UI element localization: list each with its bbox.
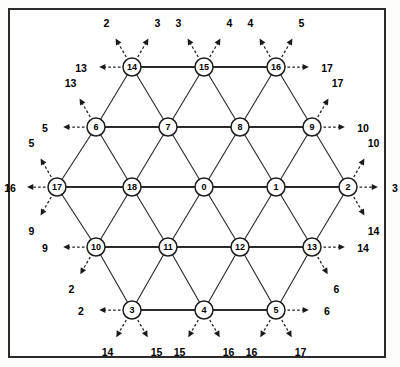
stub-label: 10 <box>368 137 380 149</box>
node-2[interactable]: 2 <box>339 178 357 196</box>
stub-16-to-17: 17 <box>288 62 333 74</box>
stub-label: 5 <box>29 137 35 149</box>
stub-label: 4 <box>248 17 254 29</box>
edge-13-5 <box>280 255 307 302</box>
edge-9-1 <box>281 135 308 180</box>
edge-0-12 <box>209 195 236 240</box>
node-17[interactable]: 17 <box>48 178 66 196</box>
edge-16-9 <box>281 75 308 120</box>
stub-label: 6 <box>324 305 330 317</box>
node-15[interactable]: 15 <box>195 58 213 76</box>
stub-13-to-14: 14 <box>324 242 369 254</box>
node-7[interactable]: 7 <box>159 118 177 136</box>
stub-3-to-15: 15 <box>138 320 163 358</box>
stub-label: 14 <box>368 225 380 237</box>
node-label: 2 <box>345 182 350 192</box>
stub-label: 5 <box>299 17 305 29</box>
node-8[interactable]: 8 <box>231 118 249 136</box>
arrowhead-icon <box>63 244 69 250</box>
stub-label: 16 <box>246 346 258 358</box>
stub-label: 17 <box>321 62 333 74</box>
node-label: 18 <box>127 182 137 192</box>
stub-label: 3 <box>176 17 182 29</box>
node-label: 1 <box>273 182 278 192</box>
stub-label: 3 <box>392 182 398 194</box>
edge-15-8 <box>209 75 236 120</box>
node-label: 11 <box>163 242 173 252</box>
node-18[interactable]: 18 <box>123 178 141 196</box>
arrowhead-icon <box>99 307 105 313</box>
node-label: 4 <box>201 305 206 315</box>
node-16[interactable]: 16 <box>267 58 285 76</box>
edge-14-7 <box>137 75 164 120</box>
stub-4-to-16: 16 <box>210 320 235 358</box>
stub-label: 3 <box>155 17 161 29</box>
node-9[interactable]: 9 <box>303 118 321 136</box>
stub-label: 9 <box>42 242 48 254</box>
node-12[interactable]: 12 <box>231 238 249 256</box>
stub-label: 14 <box>357 242 369 254</box>
node-label: 8 <box>237 122 242 132</box>
node-label: 5 <box>273 305 278 315</box>
node-5[interactable]: 5 <box>267 301 285 319</box>
node-14[interactable]: 14 <box>123 58 141 76</box>
node-label: 10 <box>91 242 101 252</box>
stub-label: 14 <box>102 346 114 358</box>
stub-2-to-10: 10 <box>354 137 380 177</box>
stub-5-to-6: 6 <box>288 305 331 317</box>
node-10[interactable]: 10 <box>87 238 105 256</box>
arrowhead-icon <box>214 330 220 337</box>
stub-label: 9 <box>29 225 35 237</box>
stub-15-to-3: 3 <box>176 17 199 57</box>
stub-16-to-4: 4 <box>248 17 271 57</box>
edge-6-18 <box>101 135 128 180</box>
node-label: 7 <box>165 122 170 132</box>
node-label: 6 <box>93 122 98 132</box>
edge-11-4 <box>172 255 199 302</box>
node-1[interactable]: 1 <box>267 178 285 196</box>
stub-label: 17 <box>295 346 307 358</box>
stub-label: 10 <box>357 122 369 134</box>
edge-18-11 <box>137 195 164 240</box>
stub-10-to-9: 9 <box>42 242 84 254</box>
node-6[interactable]: 6 <box>87 118 105 136</box>
stub-label: 16 <box>4 182 16 194</box>
stub-17-to-16: 16 <box>4 182 45 194</box>
edge-12-5 <box>244 255 271 302</box>
nodes-layer: 1415166789171801210111213345 <box>48 58 357 319</box>
stub-14-to-13: 13 <box>75 62 120 74</box>
node-label: 15 <box>199 62 209 72</box>
stub-13-to-6: 6 <box>318 257 340 295</box>
stub-17-to-9: 9 <box>29 197 52 237</box>
edge-12-4 <box>208 255 235 302</box>
stub-label: 2 <box>69 283 75 295</box>
edge-0-11 <box>173 195 200 240</box>
edge-8-0 <box>209 135 236 180</box>
edge-8-1 <box>245 135 272 180</box>
edge-6-17 <box>62 135 91 180</box>
arrowhead-icon <box>27 184 33 190</box>
stub-label: 2 <box>104 17 110 29</box>
stub-label: 16 <box>223 346 235 358</box>
stub-3-to-2: 2 <box>78 305 120 317</box>
edge-2-13 <box>317 195 344 240</box>
stub-15-to-4: 4 <box>210 17 233 57</box>
node-4[interactable]: 4 <box>195 301 213 319</box>
node-0[interactable]: 0 <box>195 178 213 196</box>
stub-5-to-17: 17 <box>282 320 307 358</box>
node-11[interactable]: 11 <box>159 238 177 256</box>
stub-14-to-3: 3 <box>138 17 161 57</box>
stub-17-to-5: 5 <box>29 137 52 177</box>
node-13[interactable]: 13 <box>303 238 321 256</box>
stub-6-to-5: 5 <box>42 122 84 134</box>
arrowhead-icon <box>99 64 105 70</box>
node-label: 0 <box>201 182 206 192</box>
stub-2-to-3: 3 <box>360 182 399 194</box>
node-label: 13 <box>307 242 317 252</box>
node-label: 16 <box>271 62 281 72</box>
node-3[interactable]: 3 <box>123 301 141 319</box>
arrowhead-icon <box>339 124 345 130</box>
edge-17-10 <box>62 195 91 240</box>
arrowhead-icon <box>63 124 69 130</box>
edge-1-12 <box>245 195 272 240</box>
